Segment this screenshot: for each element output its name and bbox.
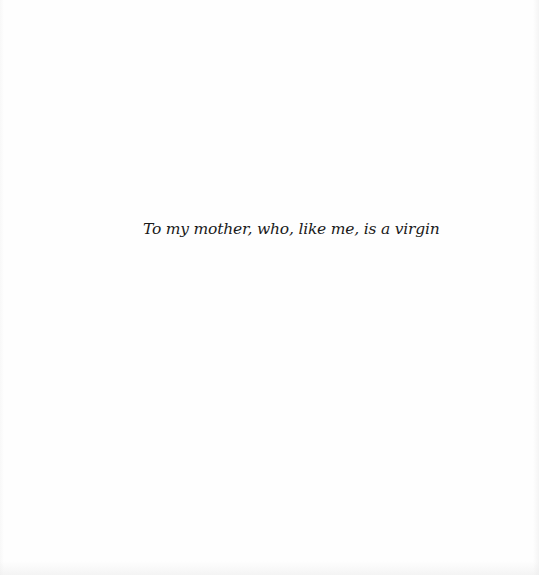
scan-edge-right — [533, 0, 539, 575]
scan-edge-left — [0, 0, 4, 575]
scan-edge-bottom — [0, 561, 539, 575]
dedication-page: To my mother, who, like me, is a virgin — [0, 0, 539, 575]
dedication-text: To my mother, who, like me, is a virgin — [143, 218, 440, 240]
